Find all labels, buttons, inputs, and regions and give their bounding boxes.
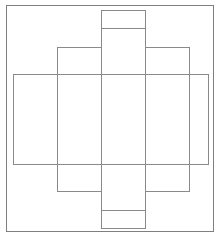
diagram-canvas [0,0,218,239]
left-side-panel [58,48,102,192]
wide-horizontal-panel [14,75,209,165]
center-column [102,11,146,229]
right-side-panel [146,48,190,192]
outer-frame [7,6,214,232]
box-net-diagram [0,0,218,239]
